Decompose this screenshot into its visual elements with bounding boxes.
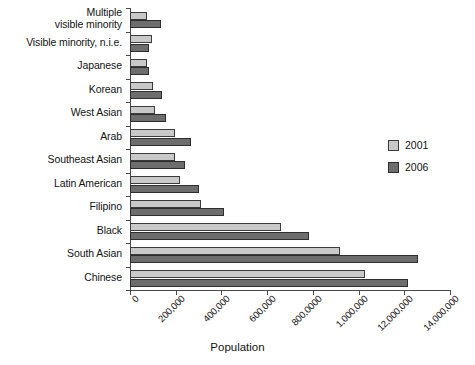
- x-tick-label-4: 800,0000: [289, 293, 324, 328]
- x-tick-label-1: 200,000: [155, 293, 186, 324]
- y-axis-label-5: Arab: [2, 131, 122, 143]
- bar-2006-4: [130, 114, 166, 122]
- bar-2006-8: [130, 208, 224, 216]
- y-tick-3: [126, 79, 130, 80]
- y-tick-9: [126, 220, 130, 221]
- y-axis-label-4: West Asian: [2, 107, 122, 119]
- y-axis-label-8: Filipino: [2, 201, 122, 213]
- bar-2006-10: [130, 255, 418, 263]
- y-tick-11: [126, 267, 130, 268]
- bar-2001-6: [130, 153, 175, 161]
- y-tick-0: [126, 8, 130, 9]
- bar-2006-9: [130, 232, 309, 240]
- bar-2001-4: [130, 106, 155, 114]
- y-axis-label-6: Southeast Asian: [2, 154, 122, 166]
- y-axis-label-11: Chinese: [2, 272, 122, 284]
- bar-2006-2: [130, 67, 149, 75]
- y-tick-4: [126, 102, 130, 103]
- y-axis-label-7: Latin American: [2, 178, 122, 190]
- y-axis-label-10: South Asian: [2, 248, 122, 260]
- y-tick-7: [126, 173, 130, 174]
- x-tick-label-0: 0: [129, 293, 140, 304]
- legend-swatch-icon-2001: [388, 140, 399, 151]
- x-tick-label-3: 600,000: [247, 293, 278, 324]
- bar-2006-7: [130, 185, 199, 193]
- bar-2001-2: [130, 59, 147, 67]
- bar-2006-0: [130, 20, 161, 28]
- bar-2001-11: [130, 270, 365, 278]
- x-tick-label-5: 1,000,000: [333, 293, 369, 329]
- bar-2001-10: [130, 247, 340, 255]
- bar-2006-5: [130, 138, 191, 146]
- x-tick-label-7: 14,000,000: [421, 293, 461, 333]
- chart-legend: 20012006: [388, 140, 428, 184]
- x-tick-label-6: 12,000,000: [375, 293, 415, 333]
- y-tick-5: [126, 126, 130, 127]
- bar-2001-8: [130, 200, 201, 208]
- x-axis-title: Population: [0, 341, 475, 353]
- y-tick-6: [126, 149, 130, 150]
- legend-label-2001: 2001: [405, 140, 428, 151]
- bar-2001-5: [130, 129, 175, 137]
- y-tick-1: [126, 32, 130, 33]
- y-axis-label-9: Black: [2, 225, 122, 237]
- bar-2006-1: [130, 44, 149, 52]
- x-tick-label-2: 400,000: [201, 293, 232, 324]
- bar-2001-9: [130, 223, 281, 231]
- bar-2001-0: [130, 12, 147, 20]
- y-axis-label-2: Japanese: [2, 60, 122, 72]
- y-tick-8: [126, 196, 130, 197]
- legend-swatch-icon-2006: [388, 162, 399, 173]
- bar-2001-3: [130, 82, 153, 90]
- y-tick-2: [126, 55, 130, 56]
- bar-2006-6: [130, 161, 185, 169]
- bar-2006-11: [130, 279, 408, 287]
- y-axis-category-labels: Multiple visible minorityVisible minorit…: [0, 0, 122, 290]
- y-tick-10: [126, 243, 130, 244]
- bar-2001-7: [130, 176, 180, 184]
- legend-item-2006: 2006: [388, 162, 428, 173]
- bar-2001-1: [130, 35, 152, 43]
- x-axis-line: [130, 290, 450, 291]
- y-axis-label-0: Multiple visible minority: [2, 7, 122, 30]
- population-bar-chart: Multiple visible minorityVisible minorit…: [0, 0, 475, 365]
- y-axis-label-1: Visible minority, n.i.e.: [2, 37, 122, 49]
- legend-label-2006: 2006: [405, 162, 428, 173]
- legend-item-2001: 2001: [388, 140, 428, 151]
- y-axis-label-3: Korean: [2, 84, 122, 96]
- bar-2006-3: [130, 91, 162, 99]
